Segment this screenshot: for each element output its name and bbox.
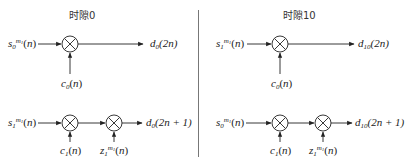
code-label: c1(n) <box>270 145 291 158</box>
input-signal-label: s1m1(n) <box>8 117 36 130</box>
code-label: c0(n) <box>271 78 292 91</box>
multiplier-icon <box>62 115 78 131</box>
panel-slot-0 <box>38 36 143 142</box>
multiplier-icon <box>106 115 122 131</box>
output-signal-label: d10(2n) <box>358 38 389 51</box>
panel-title: 时隙10 <box>283 11 316 21</box>
panel-title: 时隙0 <box>69 11 95 21</box>
multiplier-icon <box>62 36 78 52</box>
scramble-label: z1m1(n) <box>100 145 128 158</box>
panel-slot-10 <box>246 36 354 142</box>
output-signal-label: d0(2n) <box>150 38 177 51</box>
output-signal-label: d10(2n + 1) <box>355 117 404 130</box>
output-signal-label: d0(2n + 1) <box>146 117 192 130</box>
code-label: c0(n) <box>61 78 82 91</box>
code-label: c1(n) <box>60 145 81 158</box>
multiplier-icon <box>272 36 288 52</box>
input-signal-label: s1m1(n) <box>216 38 244 51</box>
multiplier-icon <box>272 115 288 131</box>
input-signal-label: s0m1(n) <box>216 117 244 130</box>
multiplier-icon <box>315 115 331 131</box>
input-signal-label: s0m1(n) <box>8 38 36 51</box>
scramble-label: z1m1(n) <box>309 145 337 158</box>
